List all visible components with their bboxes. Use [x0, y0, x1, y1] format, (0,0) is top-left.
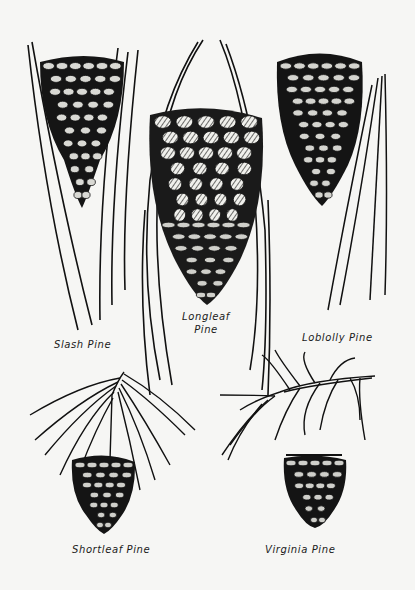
cone-scale [110, 502, 118, 508]
pine-cone-drawing [0, 0, 415, 590]
cone-scale [201, 269, 212, 275]
cone-scale [103, 101, 114, 108]
cone-scale [192, 246, 204, 252]
cone-scale [303, 75, 314, 81]
label-slash-pine: Slash Pine [54, 338, 111, 351]
cone-scale [168, 178, 181, 191]
slash-pine-cone [40, 56, 124, 208]
cone-scale [287, 75, 298, 81]
label-longleaf-line2: Pine [178, 323, 234, 336]
cone-scale [293, 110, 303, 116]
label-longleaf-pine: Longleaf Pine [178, 310, 234, 336]
cone-scale [63, 88, 74, 95]
cone-scale [122, 472, 132, 478]
cone-scale [206, 292, 215, 298]
cone-scale [322, 460, 332, 466]
cone-scale [77, 140, 87, 147]
cone-scale [312, 168, 321, 174]
cone-scale [214, 193, 227, 206]
cone-scale [188, 234, 201, 240]
cone-scale [189, 178, 202, 191]
cone-scale [115, 492, 124, 498]
cone-scale [225, 246, 237, 252]
cone-scale [310, 517, 317, 523]
cone-scale [56, 114, 66, 121]
cone-scale [203, 131, 219, 144]
cone-scale [223, 131, 239, 144]
cone-scale [241, 116, 258, 129]
cone-scale [325, 494, 333, 500]
cone-scale [332, 472, 341, 478]
cone-scale [43, 63, 55, 70]
cone-scale [82, 192, 90, 199]
cone-scale [294, 63, 306, 69]
cone-scale [219, 116, 236, 129]
cone-scale [50, 75, 61, 82]
cone-scale [109, 512, 117, 518]
cone-scale [235, 234, 248, 240]
cone-scale [315, 192, 323, 198]
cone-scale [318, 98, 329, 104]
cone-scale [97, 512, 105, 518]
cone-scale [57, 101, 68, 108]
cone-scale [286, 460, 296, 466]
cone-scale [280, 63, 292, 69]
cone-scale [103, 492, 112, 498]
cone-scale [88, 101, 99, 108]
cone-scale [170, 162, 184, 175]
cone-scale [111, 462, 121, 468]
cone-scale [105, 482, 114, 488]
virginia-pine-needles [220, 350, 375, 460]
cone-scale [219, 234, 232, 240]
cone-scale [223, 257, 234, 263]
cone-scale [97, 127, 107, 134]
cone-scale [321, 63, 333, 69]
cone-scale [300, 86, 311, 92]
cone-scale [90, 502, 98, 508]
cone-scale [100, 502, 108, 508]
cone-scale [344, 98, 355, 104]
cone-scale [81, 153, 90, 160]
cone-scale [76, 179, 85, 186]
cone-scale [109, 472, 119, 478]
cone-scale [304, 157, 313, 163]
cone-scale [193, 162, 207, 175]
cone-scale [191, 209, 203, 222]
cone-scale [80, 75, 91, 82]
cone-scale [94, 482, 103, 488]
cone-scale [307, 110, 317, 116]
cone-scale [331, 98, 342, 104]
cone-scale [104, 522, 111, 528]
cone-scale [96, 63, 108, 70]
cone-scale [338, 121, 348, 127]
cone-scale [183, 131, 199, 144]
cone-scale [103, 88, 114, 95]
cone-scale [315, 133, 325, 139]
cone-scale [233, 193, 246, 206]
cone-scale [305, 145, 315, 151]
cone-scale [299, 121, 309, 127]
cone-scale [109, 75, 120, 82]
illustration: Slash Pine Longleaf Pine Loblolly Pine S… [0, 0, 415, 590]
cone-scale [226, 209, 238, 222]
cone-scale [325, 121, 335, 127]
cone-scale [286, 86, 297, 92]
cone-scale [237, 222, 250, 228]
cone-scale [197, 281, 207, 287]
cone-scale [99, 462, 109, 468]
cone-scale [318, 75, 329, 81]
cone-scale [305, 483, 314, 489]
cone-scale [310, 460, 320, 466]
cone-scale [331, 133, 341, 139]
cone-scale [210, 178, 223, 191]
cone-scale [82, 482, 91, 488]
cone-scale [222, 222, 235, 228]
cone-scale [343, 86, 354, 92]
longleaf-pine-cone [149, 108, 263, 305]
cone-scale [69, 63, 81, 70]
cone-scale [83, 63, 95, 70]
cone-scale [82, 472, 92, 478]
cone-scale [198, 147, 213, 160]
cone-scale [207, 222, 220, 228]
cone-scale [314, 494, 322, 500]
